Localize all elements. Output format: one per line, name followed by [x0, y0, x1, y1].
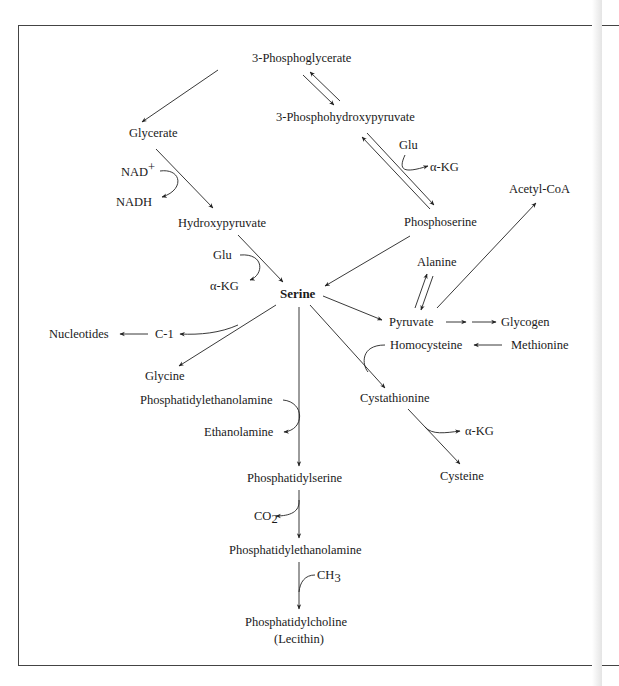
node-serine: Serine [280, 286, 316, 301]
node-cysteine: Cysteine [440, 469, 484, 483]
arrow-alanine-to-pyruvate [421, 276, 433, 310]
arrow-nad-to-nadh [160, 171, 178, 197]
node-nad-plus: NAD+ [121, 160, 155, 179]
node-cystathionine: Cystathionine [360, 391, 430, 405]
node-akg-top: α-KG [430, 160, 459, 174]
arrow-glu-to-akg-top [402, 155, 428, 170]
node-glycine: Glycine [145, 369, 185, 383]
arrow-serine-to-pyruvate [323, 296, 382, 320]
arrow-glycerate-to-hydroxypyruvate [156, 149, 213, 208]
node-akg-right: α-KG [465, 424, 494, 438]
arrow-cystathionine-to-cysteine [408, 409, 460, 464]
node-co2: CO2 [254, 509, 278, 526]
node-c1: C-1 [155, 327, 174, 341]
node-phosphatidylethanolamine-cofactor: Phosphatidylethanolamine [140, 393, 273, 407]
node-nucleotides: Nucleotides [49, 327, 109, 341]
node-phosphatidylcholine: Phosphatidylcholine [245, 615, 348, 629]
node-alanine: Alanine [417, 255, 457, 269]
arrow-to-co2 [276, 500, 299, 516]
node-methionine: Methionine [511, 338, 569, 352]
node-glycerate: Glycerate [129, 126, 178, 140]
arrow-glu-to-akg-left [240, 255, 260, 280]
node-pyruvate: Pyruvate [389, 315, 434, 329]
node-phosphoserine: Phosphoserine [404, 215, 477, 229]
node-homocysteine: Homocysteine [390, 338, 463, 352]
arrow-serine-to-c1 [180, 325, 238, 334]
node-glu-left: Glu [213, 248, 233, 262]
arrow-serine-to-glycine [179, 305, 276, 366]
curve-ch3-join [299, 575, 315, 592]
node-nadh: NADH [116, 195, 152, 209]
node-3-phosphoglycerate: 3-Phosphoglycerate [252, 51, 352, 65]
node-phosphatidylserine: Phosphatidylserine [247, 471, 343, 485]
node-lecithin: (Lecithin) [274, 632, 324, 646]
node-ch3: CH3 [317, 568, 341, 585]
arrow-phosphoserine-to-3php [362, 137, 430, 209]
arrow-pe-to-ethanolamine [283, 400, 300, 432]
node-akg-left: α-KG [210, 279, 239, 293]
node-hydroxypyruvate: Hydroxypyruvate [178, 216, 267, 230]
node-ethanolamine: Ethanolamine [204, 425, 274, 439]
arrow-hydroxypyruvate-to-serine [238, 235, 283, 282]
node-phosphatidylethanolamine: Phosphatidylethanolamine [229, 543, 362, 557]
arrow-3pg-to-3php [303, 75, 334, 105]
arrow-phosphoserine-to-serine [325, 236, 410, 286]
node-3-phosphohydroxypyruvate: 3-Phosphohydroxypyruvate [276, 110, 415, 124]
node-glu-top: Glu [399, 138, 419, 152]
node-glycogen: Glycogen [501, 315, 550, 329]
arrow-3pg-to-glycerate [142, 70, 218, 122]
node-acetyl-coa: Acetyl-CoA [509, 182, 570, 196]
arrow-pyruvate-to-alanine [415, 274, 427, 308]
